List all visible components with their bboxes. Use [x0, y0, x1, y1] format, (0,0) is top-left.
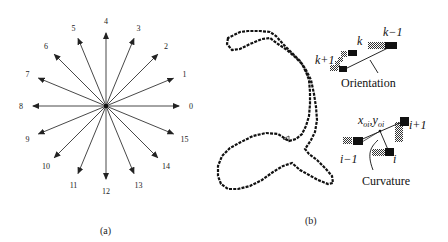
label-k-plus-1: k+1: [315, 53, 334, 67]
label-k-minus-1: k−1: [383, 25, 402, 39]
label-i-plus-1: i+1: [409, 118, 426, 132]
curvature-label: Curvature: [362, 174, 410, 188]
direction-arrow-6: [54, 54, 106, 106]
pixel-i-plus-1: [400, 117, 409, 126]
direction-label-6: 6: [44, 42, 48, 51]
label-k: k: [357, 34, 363, 48]
direction-label-9: 9: [26, 135, 30, 144]
orientation-label: Orientation: [341, 76, 396, 90]
direction-label-14: 14: [162, 162, 170, 171]
figure-canvas: 0123456789101112131415 (a) k+1 k k−1 Ori…: [0, 0, 448, 242]
direction-label-15: 15: [181, 135, 189, 144]
label-i: i: [393, 152, 396, 166]
coord-label: xoi,yoi: [357, 113, 384, 129]
direction-label-0: 0: [189, 102, 193, 111]
caption-b: (b): [305, 215, 317, 227]
caption-a: (a): [100, 225, 111, 237]
orientation-inset: [330, 42, 397, 73]
label-i-minus-1: i−1: [340, 152, 357, 166]
direction-label-1: 1: [183, 70, 187, 79]
pixel-k-minus-1: [385, 42, 397, 49]
direction-label-12: 12: [102, 187, 110, 196]
direction-label-13: 13: [135, 181, 143, 190]
direction-arrow-2: [106, 54, 158, 106]
pixel-k: [348, 50, 357, 56]
direction-label-10: 10: [42, 162, 50, 171]
direction-label-11: 11: [70, 181, 78, 190]
direction-label-8: 8: [19, 102, 23, 111]
direction-arrow-10: [54, 106, 106, 158]
direction-label-4: 4: [104, 17, 108, 26]
star-center: [104, 104, 108, 108]
direction-label-3: 3: [137, 24, 141, 33]
direction-label-2: 2: [164, 42, 168, 51]
direction-label-5: 5: [72, 24, 76, 33]
direction-arrow-14: [106, 106, 158, 158]
direction-label-7: 7: [26, 70, 30, 79]
